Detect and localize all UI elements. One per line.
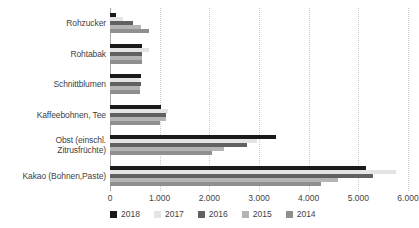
category-label: Rohtabak <box>0 49 106 59</box>
category-label: Obst (einschl.Zitrusfrüchte) <box>0 135 106 155</box>
legend-swatch-icon <box>110 211 117 218</box>
category-label-line: Zitrusfrüchte) <box>0 145 106 155</box>
bar-group <box>110 8 408 39</box>
bar-2014 <box>110 182 321 186</box>
value-axis-tick-labels: 01.0002.0003.0004.0005.0006.000 <box>110 193 408 205</box>
category-label-line: Kaffeebohnen, Tee <box>0 110 106 120</box>
tick-label: 3.000 <box>248 193 269 203</box>
bar-2014 <box>110 29 149 33</box>
category-label-line: Kakao (Bohnen,Paste) <box>0 171 106 181</box>
bar-2014 <box>110 121 160 125</box>
legend-item-2015[interactable]: 2015 <box>242 209 272 219</box>
tick-label: 1.000 <box>149 193 170 203</box>
legend-label: 2016 <box>209 209 228 219</box>
tick-label: 2.000 <box>199 193 220 203</box>
legend-label: 2017 <box>165 209 184 219</box>
legend-label: 2018 <box>121 209 140 219</box>
category-label: Kakao (Bohnen,Paste) <box>0 171 106 181</box>
bar-2014 <box>110 90 140 94</box>
category-label-line: Obst (einschl. <box>0 135 106 145</box>
bar-group <box>110 130 408 161</box>
bar-group <box>110 39 408 70</box>
legend-label: 2014 <box>297 209 316 219</box>
bar-2014 <box>110 60 142 64</box>
tick-label: 0 <box>108 193 113 203</box>
legend-swatch-icon <box>198 211 205 218</box>
category-label: Schnittblumen <box>0 79 106 89</box>
legend-item-2017[interactable]: 2017 <box>154 209 184 219</box>
category-label: Rohzucker <box>0 18 106 28</box>
legend-item-2016[interactable]: 2016 <box>198 209 228 219</box>
tick-label: 6.000 <box>397 193 418 203</box>
legend-swatch-icon <box>154 211 161 218</box>
category-label-line: Schnittblumen <box>0 79 106 89</box>
bar-group <box>110 100 408 131</box>
category-axis-labels: RohzuckerRohtabakSchnittblumenKaffeebohn… <box>0 8 106 191</box>
legend-swatch-icon <box>286 211 293 218</box>
legend-swatch-icon <box>242 211 249 218</box>
legend-item-2018[interactable]: 2018 <box>110 209 140 219</box>
legend-item-2014[interactable]: 2014 <box>286 209 316 219</box>
chart-legend: 20182017201620152014 <box>110 207 330 221</box>
bar-2014 <box>110 151 212 155</box>
category-label: Kaffeebohnen, Tee <box>0 110 106 120</box>
tick-label: 5.000 <box>348 193 369 203</box>
legend-label: 2015 <box>253 209 272 219</box>
category-label-line: Rohzucker <box>0 18 106 28</box>
plot-area <box>110 8 408 191</box>
tick-label: 4.000 <box>298 193 319 203</box>
bar-group <box>110 161 408 192</box>
gridline <box>408 8 410 191</box>
category-label-line: Rohtabak <box>0 49 106 59</box>
bar-group <box>110 69 408 100</box>
